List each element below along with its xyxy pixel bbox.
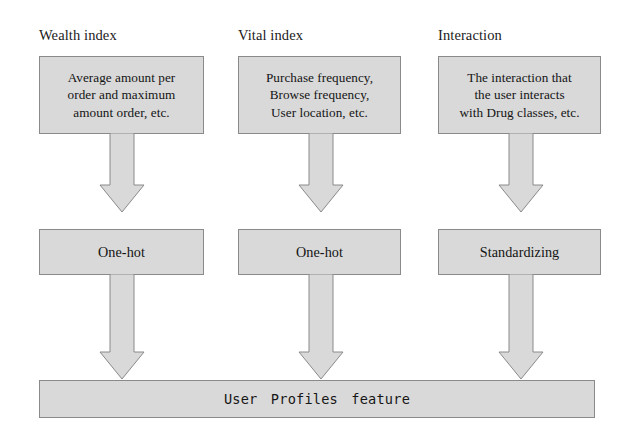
description-text-interaction: The interaction that the user interacts … [454,69,584,122]
desc-line: the user interacts [474,87,564,102]
desc-line: User location, etc. [271,105,368,120]
method-box-interaction: Standardizing [438,229,601,275]
arrow-vital-index-to-one-hot [298,133,344,213]
desc-line: Browse frequency, [270,87,370,102]
arrow-interaction-to-standardizing [498,133,544,213]
arrow-wealth-index-to-one-hot [99,133,145,213]
desc-line: Purchase frequency, [266,70,373,85]
description-text-vital-index: Purchase frequency, Browse frequency, Us… [261,69,378,122]
method-box-vital-index: One-hot [238,229,401,275]
summary-bar-user-profiles-feature: User Profiles feature [39,380,595,418]
column-label-interaction: Interaction [438,27,502,44]
description-box-vital-index: Purchase frequency, Browse frequency, Us… [238,56,401,134]
arrow-standardizing-to-user-profiles [498,274,544,380]
column-label-vital-index: Vital index [238,27,303,44]
desc-line: Average amount per [68,70,176,85]
arrow-one-hot-to-user-profiles-vital [298,274,344,380]
desc-line: order and maximum [68,87,176,102]
summary-text: User Profiles feature [224,391,410,407]
desc-line: amount order, etc. [73,105,169,120]
description-text-wealth-index: Average amount per order and maximum amo… [63,69,181,122]
method-text-wealth-index: One-hot [93,243,150,262]
desc-line: The interaction that [467,70,571,85]
method-text-vital-index: One-hot [291,243,348,262]
column-label-wealth-index: Wealth index [39,27,117,44]
method-box-wealth-index: One-hot [39,229,204,275]
method-text-interaction: Standardizing [475,243,564,262]
description-box-wealth-index: Average amount per order and maximum amo… [39,56,204,134]
flow-diagram: Wealth index Vital index Interaction Ave… [0,0,633,435]
arrow-one-hot-to-user-profiles-wealth [99,274,145,380]
desc-line: with Drug classes, etc. [459,105,579,120]
description-box-interaction: The interaction that the user interacts … [438,56,601,134]
